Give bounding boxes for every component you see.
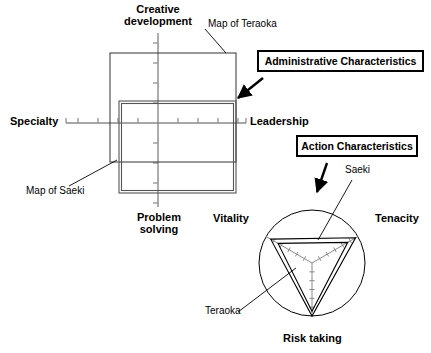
radar-series-saeki	[271, 238, 356, 316]
axis-label-vitality: Vitality	[213, 213, 249, 225]
left-chart-series-rect-outer-1	[119, 101, 236, 193]
radar-series-teraoka	[278, 242, 348, 311]
axis-label-leadership: Leadership	[250, 116, 309, 128]
figure-canvas: Creative development Problem solving Spe…	[0, 0, 431, 353]
axis-label-problem-solving: Problem solving	[104, 212, 214, 236]
callout-administrative-characteristics: Administrative Characteristics	[257, 50, 424, 72]
series-label-teraoka: Teraoka	[205, 306, 241, 317]
callout-action-characteristics: Action Characteristics	[296, 135, 418, 157]
left-chart-series-rect-inner-1	[122, 104, 234, 191]
series-label-map-of-saeki: Map of Saeki	[26, 186, 84, 197]
series-label-map-of-teraoka: Map of Teraoka	[208, 19, 277, 30]
axis-label-risk-taking: Risk taking	[283, 333, 342, 345]
series-label-saeki: Saeki	[345, 165, 370, 176]
leader-line-teraoka	[238, 268, 296, 312]
axis-label-specialty: Specialty	[10, 116, 58, 128]
left-chart-series-rect-0	[110, 53, 236, 162]
callout-arrow-administrative	[238, 78, 263, 98]
leader-line-map-of-teraoka	[205, 29, 226, 53]
leader-line-map-of-saeki	[69, 160, 117, 186]
leader-line-saeki	[318, 180, 352, 240]
axis-label-creative-development: Creative development	[102, 4, 214, 28]
callout-arrow-action	[317, 163, 327, 192]
axis-label-tenacity: Tenacity	[375, 213, 419, 225]
